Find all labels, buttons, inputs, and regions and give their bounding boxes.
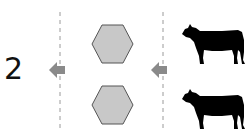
cow-bottom-icon (182, 89, 245, 129)
hexagon-bottom-icon (92, 86, 133, 124)
cow-top-icon (182, 24, 245, 64)
diagram-canvas (0, 0, 250, 138)
hexagon-top-icon (92, 25, 133, 63)
arrow-left-icon (49, 62, 65, 78)
arrow-left-icon (151, 62, 167, 78)
